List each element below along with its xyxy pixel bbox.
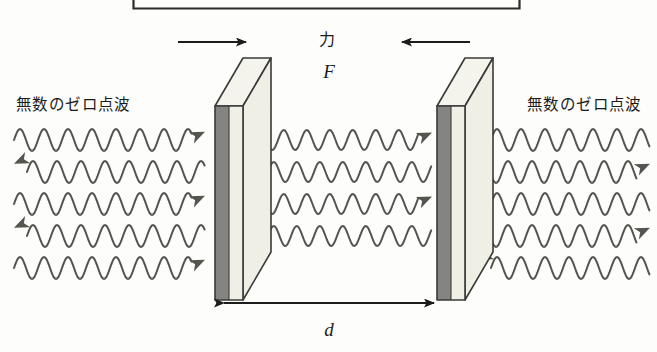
wave-row [14, 129, 205, 151]
caption-box [134, 0, 520, 9]
left-zero-point-waves [14, 129, 205, 279]
wave-arrow-right-icon [634, 228, 650, 240]
sine-wave [491, 193, 649, 215]
right-zero-point-waves [478, 120, 650, 279]
diagram-canvas: 無数のゼロ点波 無数のゼロ点波 力 F d [0, 0, 657, 352]
wave-arrow-right-icon [189, 132, 205, 144]
sine-wave [14, 129, 192, 151]
wave-arrow-right-icon [416, 197, 432, 209]
right-plate [437, 58, 493, 300]
left-plate [215, 58, 271, 300]
wave-row [14, 216, 205, 247]
sine-wave [491, 257, 649, 279]
sine-wave [27, 225, 205, 247]
wave-arrow-right-icon [189, 260, 205, 272]
sine-wave [491, 129, 649, 151]
force-label-japanese: 力 [319, 30, 335, 49]
wave-row [478, 225, 650, 247]
wave-row [478, 161, 650, 183]
wave-row [478, 120, 649, 151]
zero-point-wave-field [14, 120, 650, 279]
wave-arrow-left-icon [14, 152, 30, 164]
sine-wave [27, 161, 205, 183]
wave-arrow-right-icon [416, 133, 432, 145]
sine-wave [268, 226, 431, 246]
wave-row [255, 194, 432, 214]
force-symbol-label: F [322, 61, 335, 82]
sine-wave [255, 130, 418, 150]
wave-row [14, 193, 205, 215]
center-cavity-waves [255, 130, 432, 246]
sine-wave [14, 193, 192, 215]
sine-wave [478, 225, 636, 247]
wave-row [478, 248, 649, 279]
wave-row [14, 152, 205, 183]
wave-row [14, 257, 205, 279]
wave-row [478, 184, 649, 215]
wave-arrow-right-icon [634, 164, 650, 176]
wave-row [255, 130, 432, 150]
sine-wave [14, 257, 192, 279]
sine-wave [478, 161, 636, 183]
sine-wave [255, 194, 418, 214]
right-wave-label: 無数のゼロ点波 [527, 96, 642, 114]
wave-arrow-right-icon [189, 196, 205, 208]
casimir-effect-diagram: 無数のゼロ点波 無数のゼロ点波 力 F d [0, 0, 657, 352]
sine-wave [268, 162, 431, 182]
wave-row [255, 217, 431, 246]
wave-row [255, 153, 431, 182]
distance-symbol-label: d [324, 319, 334, 340]
left-wave-label: 無数のゼロ点波 [16, 96, 131, 114]
wave-arrow-left-icon [14, 216, 30, 228]
